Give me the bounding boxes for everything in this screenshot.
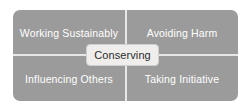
quadrant-top-right-label: Avoiding Harm bbox=[147, 27, 218, 39]
quadrant-top-left-label: Working Sustainably bbox=[20, 27, 118, 39]
center-node[interactable]: Conserving bbox=[86, 44, 159, 66]
center-node-label: Conserving bbox=[94, 49, 151, 61]
quadrant-bottom-right-label: Taking Initiative bbox=[145, 73, 219, 85]
quadrant-bottom-left-label: Influencing Others bbox=[25, 73, 113, 85]
diagram-canvas: Working Sustainably Avoiding Harm Influe… bbox=[0, 0, 252, 110]
